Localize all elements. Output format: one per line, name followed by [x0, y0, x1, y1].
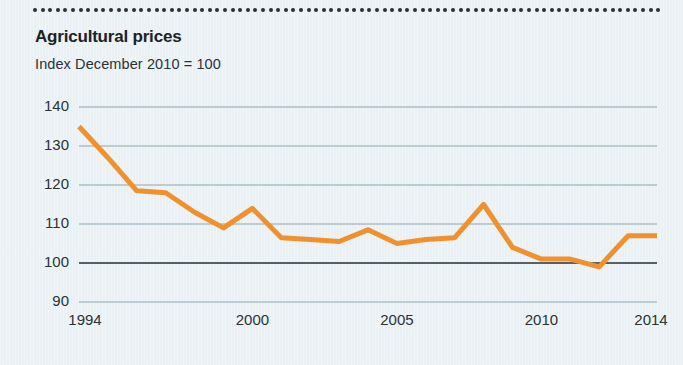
- x-axis-tick-label: 2010: [511, 311, 571, 328]
- y-axis-tick-label: 100: [27, 253, 69, 270]
- x-axis-tick-label: 2014: [621, 311, 681, 328]
- plot-area: 90100110120130140 19942000200520102014: [0, 0, 683, 365]
- y-axis-tick-label: 130: [27, 136, 69, 153]
- y-axis-tick-label: 90: [27, 292, 69, 309]
- x-axis-tick-label: 1994: [55, 311, 115, 328]
- y-axis-tick-label: 140: [27, 97, 69, 114]
- data-series-line: [79, 127, 657, 267]
- series-group: [79, 127, 657, 267]
- y-axis-tick-label: 110: [27, 214, 69, 231]
- figure-container: Agricultural prices Index December 2010 …: [0, 0, 683, 365]
- x-axis-tick-label: 2000: [222, 311, 282, 328]
- gridlines-group: [79, 107, 657, 302]
- x-axis-tick-label: 2005: [367, 311, 427, 328]
- y-axis-tick-label: 120: [27, 175, 69, 192]
